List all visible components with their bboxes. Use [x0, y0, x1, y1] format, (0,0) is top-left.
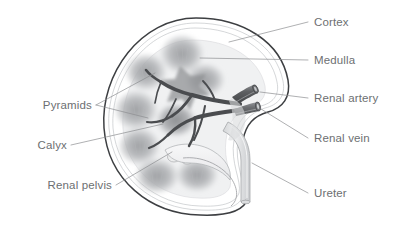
- label-ureter: Ureter: [314, 187, 347, 199]
- label-renal-artery: Renal artery: [314, 92, 379, 104]
- label-calyx: Calyx: [37, 139, 67, 151]
- label-medulla: Medulla: [314, 54, 356, 66]
- leader-renal-artery: [260, 92, 308, 98]
- label-renal-vein: Renal vein: [314, 132, 370, 144]
- label-renal-pelvis: Renal pelvis: [48, 179, 113, 191]
- kidney-diagram-canvas: Cortex Medulla Renal artery Renal vein U…: [0, 0, 408, 231]
- leader-renal-vein: [261, 109, 308, 138]
- kidney-body: [104, 18, 289, 215]
- leader-ureter: [252, 163, 308, 193]
- ureter-opening: [241, 200, 250, 204]
- kidney-diagram-figure: Cortex Medulla Renal artery Renal vein U…: [0, 0, 408, 231]
- label-cortex: Cortex: [314, 16, 349, 28]
- label-pyramids: Pyramids: [43, 99, 92, 111]
